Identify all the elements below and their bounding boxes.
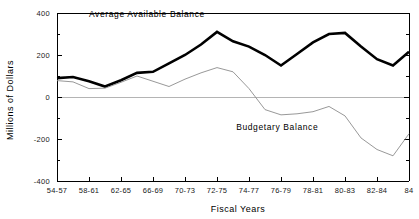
- x-tick-label: 62-65: [111, 186, 132, 195]
- x-tick-label: 70-73: [175, 186, 196, 195]
- y-tick-label: -200: [34, 135, 50, 144]
- x-tick-label: 58-61: [79, 186, 100, 195]
- x-tick-label: 76-79: [271, 186, 292, 195]
- average-available-balance-label: Average Available Balance: [89, 9, 205, 19]
- x-tick-label: 84: [405, 186, 414, 195]
- y-axis-title: Millions of Dollars: [5, 60, 15, 140]
- x-axis-title: Fiscal Years: [211, 204, 266, 214]
- line-chart: 4002000-200-400 54-5758-6162-6566-6970-7…: [0, 0, 419, 219]
- x-tick-label: 72-75: [207, 186, 228, 195]
- budgetary-balance-label: Budgetary Balance: [236, 122, 318, 132]
- y-tick-label: 0: [46, 93, 50, 102]
- x-axis-tick-labels: 54-5758-6162-6566-6970-7372-7574-7776-79…: [47, 186, 414, 195]
- chart-figure: 4002000-200-400 54-5758-6162-6566-6970-7…: [0, 0, 419, 219]
- y-axis-tick-labels: 4002000-200-400: [34, 9, 50, 186]
- y-tick-label: -400: [34, 177, 50, 186]
- x-tick-label: 78-81: [303, 186, 324, 195]
- y-tick-label: 400: [37, 9, 50, 18]
- x-tick-label: 82-84: [367, 186, 388, 195]
- x-tick-label: 54-57: [47, 186, 68, 195]
- x-tick-label: 80-83: [335, 186, 356, 195]
- x-tick-label: 66-69: [143, 186, 164, 195]
- y-tick-label: 200: [37, 51, 50, 60]
- x-tick-label: 74-77: [239, 186, 260, 195]
